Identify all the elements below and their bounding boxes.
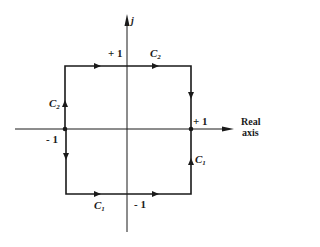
imaginary-axis-arrow-icon: [125, 14, 130, 26]
imaginary-axis-label: j: [131, 15, 134, 26]
real-axis-label-line1: Real: [241, 117, 260, 127]
arrow-right-down-icon: [188, 92, 194, 99]
real-axis-arrow-icon: [222, 127, 234, 132]
tick-label-right: + 1: [193, 116, 208, 127]
arrow-right-up-icon: [188, 158, 194, 165]
contour-label-c1-right: C1: [195, 154, 206, 169]
contour-label-c1-bottom: C1: [94, 200, 105, 215]
tick-label-bottom: - 1: [134, 199, 146, 210]
arrow-top-right-icon: [152, 63, 159, 69]
point-minus-one-dot-icon: [63, 127, 68, 132]
arrow-bottom-left-icon: [94, 191, 101, 197]
contour-label-c2-top: C2: [150, 48, 161, 63]
arrow-bottom-right-icon: [152, 191, 159, 197]
real-axis-label-line2: axis: [242, 128, 259, 138]
arrow-top-left-icon: [94, 63, 101, 69]
arrow-left-down-icon: [63, 153, 69, 160]
contour-label-c2-left: C2: [49, 98, 60, 113]
point-plus-one-dot-icon: [189, 127, 194, 132]
contour-path: [65, 66, 191, 194]
tick-label-top: + 1: [108, 48, 123, 59]
tick-label-left: - 1: [46, 134, 58, 145]
arrow-left-up-icon: [62, 100, 68, 107]
